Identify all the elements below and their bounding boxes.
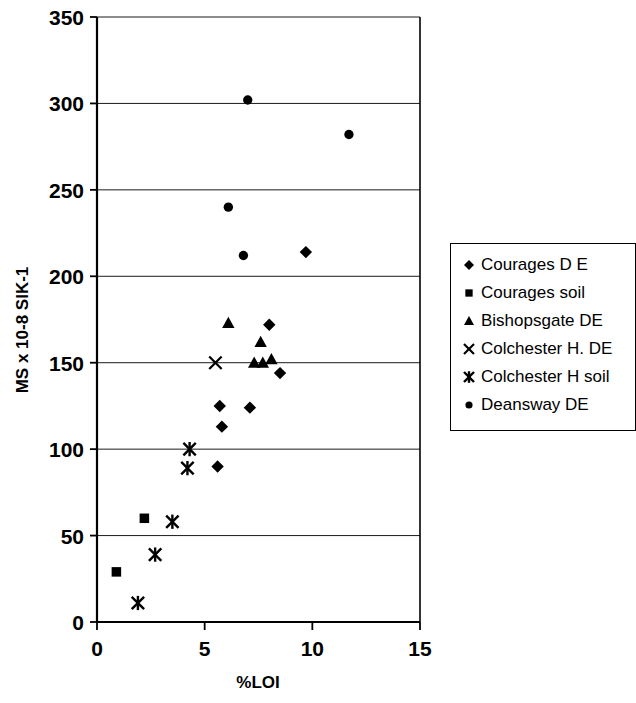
data-point: [132, 596, 144, 610]
y-tick-label: 50: [61, 525, 84, 548]
y-tick-label: 0: [72, 611, 84, 634]
data-point: [263, 318, 275, 330]
legend-item-label: Courages soil: [481, 283, 585, 303]
data-point: [274, 367, 286, 379]
x-axis-title: %LOI: [236, 673, 279, 692]
triangle-marker-icon: [459, 311, 479, 331]
series-5: [132, 442, 196, 610]
x-axis-tick-labels: 051015: [91, 637, 432, 660]
data-point: [112, 567, 122, 577]
data-point: [344, 130, 353, 139]
data-point: [214, 400, 226, 412]
square-marker-icon: [459, 283, 479, 303]
y-tick-label: 300: [49, 92, 84, 115]
axis-ticks: [90, 17, 420, 630]
data-point: [140, 514, 150, 524]
legend-item-6: Deansway DE: [459, 391, 635, 419]
data-point: [239, 251, 248, 260]
data-point: [244, 401, 256, 413]
data-point: [254, 336, 266, 347]
legend-item-label: Courages D E: [481, 255, 588, 275]
x-tick-label: 15: [408, 637, 432, 660]
chart-legend: Courages D ECourages soilBishopsgate DEC…: [450, 243, 636, 431]
data-point: [216, 420, 228, 432]
data-point: [265, 353, 277, 364]
legend-item-label: Deansway DE: [481, 395, 589, 415]
y-tick-label: 150: [49, 352, 84, 375]
x-tick-label: 0: [91, 637, 103, 660]
y-axis-title: MS x 10-8 SIK-1: [13, 267, 32, 394]
x-marker-icon: [459, 339, 479, 359]
series-6: [224, 95, 354, 260]
legend-item-3: Bishopsgate DE: [459, 307, 635, 335]
data-point: [211, 460, 223, 472]
asterisk-marker-icon: [459, 367, 479, 387]
y-tick-label: 200: [49, 265, 84, 288]
data-point: [166, 515, 178, 529]
x-tick-label: 10: [301, 637, 324, 660]
legend-item-2: Courages soil: [459, 279, 635, 307]
axis-lines: [97, 17, 420, 622]
data-point: [243, 95, 252, 104]
y-axis-tick-labels: 050100150200250300350: [49, 6, 84, 634]
legend-item-label: Colchester H soil: [481, 367, 610, 387]
legend-item-label: Bishopsgate DE: [481, 311, 603, 331]
data-point: [181, 461, 193, 475]
legend-item-4: Colchester H. DE: [459, 335, 635, 363]
gridlines: [97, 17, 420, 536]
data-point: [149, 547, 161, 561]
y-tick-label: 100: [49, 438, 84, 461]
data-point: [222, 317, 234, 328]
diamond-marker-icon: [459, 255, 479, 275]
circle-marker-icon: [459, 395, 479, 415]
y-tick-label: 250: [49, 179, 84, 202]
data-point: [300, 246, 312, 258]
y-tick-label: 350: [49, 6, 84, 29]
series-2: [112, 514, 150, 577]
data-points-layer: [112, 95, 354, 610]
legend-item-1: Courages D E: [459, 251, 635, 279]
legend-item-5: Colchester H soil: [459, 363, 635, 391]
data-point: [224, 202, 233, 211]
legend-item-label: Colchester H. DE: [481, 339, 612, 359]
scatter-plot-figure: 050100150200250300350 051015 MS x 10-8 S…: [0, 0, 636, 703]
x-tick-label: 5: [199, 637, 211, 660]
